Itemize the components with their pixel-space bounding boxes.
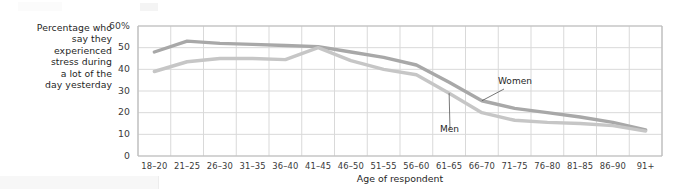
y-tick-label-60: 60% [84,20,130,31]
annotation-label-women: Women [498,76,532,86]
y-tick-label-40: 40 [84,63,130,74]
y-tick-label-20: 20 [84,106,130,117]
x-tick-label-15: 91+ [623,161,669,171]
y-tick-label-50: 50 [84,41,130,52]
annotation-label-men: Men [440,124,459,134]
x-axis-title: Age of respondent [138,173,662,184]
y-tick-label-0: 0 [84,150,130,161]
y-tick-label-30: 30 [84,85,130,96]
stress-by-age-line-chart: Percentage who say they experienced stre… [0,0,683,189]
y-tick-label-10: 10 [84,128,130,139]
